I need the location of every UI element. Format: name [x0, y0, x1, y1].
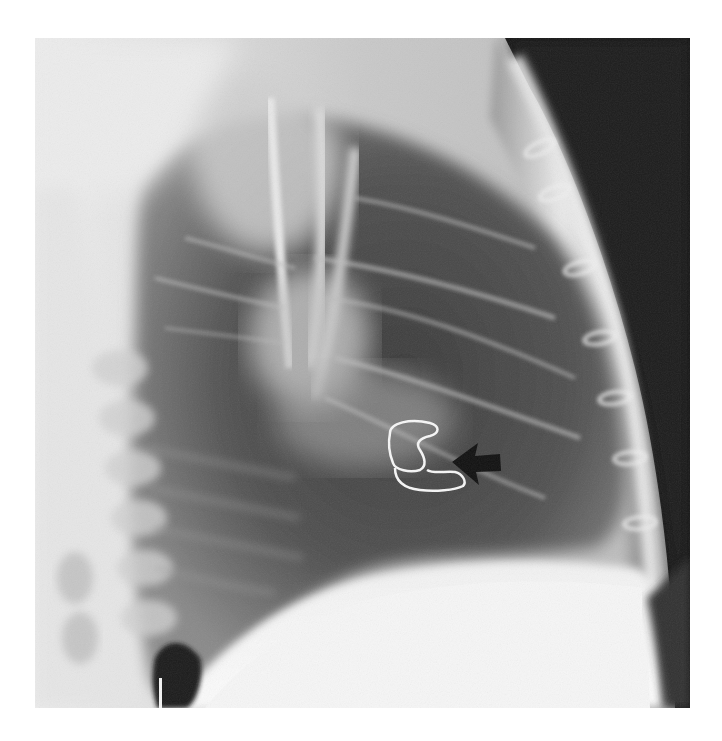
- xray-image: [35, 38, 690, 708]
- chest-xray-figure: [35, 38, 690, 708]
